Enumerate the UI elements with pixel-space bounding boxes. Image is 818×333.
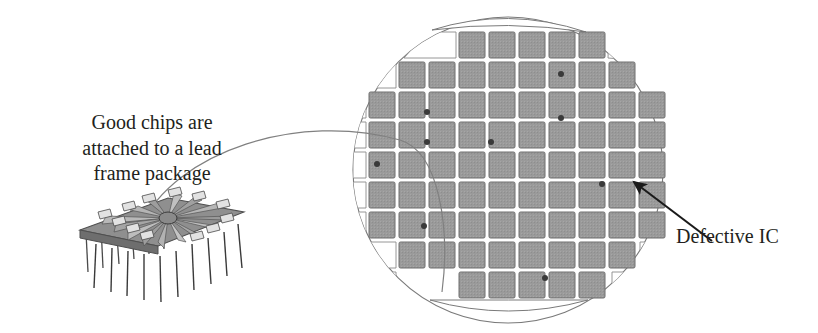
wafer-die (429, 242, 455, 268)
defect-marker-dot (421, 223, 427, 229)
wafer-die (429, 92, 455, 118)
wafer-die (489, 62, 515, 88)
wafer-die (639, 92, 665, 118)
partial-die (353, 152, 366, 178)
wafer-die (519, 242, 545, 268)
wafer-die (579, 152, 605, 178)
partial-die (640, 242, 666, 268)
good-chips-label: Good chips are attached to a lead frame … (42, 110, 262, 187)
wafer-die (579, 212, 605, 238)
wafer-die (399, 62, 425, 88)
defect-marker-dot (488, 139, 494, 145)
wafer-die (639, 152, 665, 178)
defective-ic-label: Defective IC (676, 224, 779, 250)
wafer-die (519, 182, 545, 208)
wafer-die (609, 182, 635, 208)
wafer-die (549, 92, 575, 118)
wafer-group (353, 17, 676, 323)
wafer-die (609, 212, 635, 238)
wafer-die (609, 152, 635, 178)
wafer-die (519, 122, 545, 148)
wafer-figure: Good chips are attached to a lead frame … (0, 0, 818, 333)
wafer-die (579, 242, 605, 268)
wafer-die (459, 32, 485, 58)
wafer-die (399, 92, 425, 118)
partial-die (367, 242, 396, 268)
wafer-die (519, 32, 545, 58)
wafer-die (459, 152, 485, 178)
wafer-die (639, 212, 665, 238)
wafer-die (459, 242, 485, 268)
wafer-die (369, 152, 395, 178)
wafer-die (549, 212, 575, 238)
wafer-die (369, 122, 395, 148)
wafer-die (609, 62, 635, 88)
wafer-die (519, 62, 545, 88)
wafer-die (489, 152, 515, 178)
wafer-die (519, 212, 545, 238)
wafer-die (579, 92, 605, 118)
defect-marker-dot (424, 139, 430, 145)
wafer-die (459, 92, 485, 118)
defect-marker-dot (558, 71, 564, 77)
wafer-die (489, 242, 515, 268)
defect-marker-dot (424, 109, 430, 115)
partial-die (404, 32, 456, 58)
package-die-pad (159, 212, 177, 224)
good-chips-line-3: frame package (42, 161, 262, 187)
wafer-die (369, 92, 395, 118)
wafer-die (429, 182, 455, 208)
wafer-die (399, 242, 425, 268)
partial-die (362, 62, 396, 88)
wafer-die (489, 32, 515, 58)
wafer-die (489, 272, 515, 298)
wafer-die (609, 242, 635, 268)
partial-die (666, 212, 674, 240)
wafer-die (579, 62, 605, 88)
wafer-die (609, 92, 635, 118)
wafer-die (399, 212, 425, 238)
partial-die (353, 92, 366, 118)
wafer-die (459, 122, 485, 148)
wafer-die (639, 122, 665, 148)
wafer-die (549, 152, 575, 178)
partial-die (639, 62, 670, 92)
wafer-die (579, 32, 605, 58)
wafer-die (489, 92, 515, 118)
wafer-die (429, 62, 455, 88)
wafer-die (549, 32, 575, 58)
defect-marker-dot (599, 181, 605, 187)
wafer-die (519, 152, 545, 178)
wafer-die (489, 212, 515, 238)
wafer-die (549, 272, 575, 298)
wafer-die (489, 182, 515, 208)
wafer-die (459, 182, 485, 208)
wafer-die (459, 62, 485, 88)
wafer-die (459, 212, 485, 238)
partial-die (668, 182, 676, 208)
wafer-die (549, 182, 575, 208)
dip-lead-frame-package (80, 187, 244, 302)
wafer-die (609, 122, 635, 148)
wafer-die (369, 212, 395, 238)
wafer-die (369, 182, 395, 208)
partial-die (356, 212, 366, 238)
wafer-die (519, 272, 545, 298)
wafer-die (579, 272, 605, 298)
defect-marker-dot (558, 115, 564, 121)
good-chips-line-2: attached to a lead (42, 136, 262, 162)
partial-die (612, 272, 648, 298)
wafer-die (399, 182, 425, 208)
wafer-die (519, 92, 545, 118)
partial-die (668, 152, 676, 178)
partial-die (668, 122, 676, 150)
wafer-die (459, 272, 485, 298)
partial-die (608, 32, 660, 62)
wafer-die (399, 122, 425, 148)
wafer-die (579, 122, 605, 148)
defect-marker-dot (542, 275, 548, 281)
wafer-die (429, 152, 455, 178)
wafer-die (549, 122, 575, 148)
wafer-die (549, 242, 575, 268)
good-chips-line-1: Good chips are (42, 110, 262, 136)
